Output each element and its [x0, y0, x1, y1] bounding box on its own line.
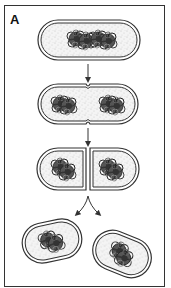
stage-1-parent-cell — [38, 20, 140, 60]
stage-2-septum-forming — [38, 84, 138, 124]
stage-3-cell-dividing — [37, 148, 139, 190]
stage-4-daughter-cell-left — [18, 215, 85, 267]
arrow-left-icon — [77, 196, 88, 214]
split-arrows — [77, 196, 99, 214]
arrow-right-icon — [88, 196, 99, 214]
binary-fission-diagram — [0, 0, 171, 288]
stage-4-daughter-cell-right — [87, 224, 158, 284]
